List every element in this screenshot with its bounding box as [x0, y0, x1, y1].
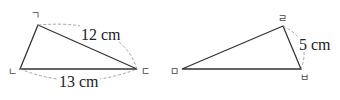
triangle-right: 5 cm ㄹ ㅁ ㅂ — [170, 13, 334, 83]
measure-5cm: 5 cm — [299, 36, 331, 53]
vertex-label-bieup: ㅂ — [300, 72, 309, 83]
vertex-label-giyeok: ㄱ — [31, 10, 40, 21]
measure-12cm: 12 cm — [81, 26, 121, 43]
measure-13cm: 13 cm — [59, 73, 99, 90]
triangle-right-shape — [182, 26, 301, 69]
diagram-canvas: 12 cm 13 cm ㄱ ㄴ ㄷ 5 cm ㄹ ㅁ ㅂ — [0, 0, 340, 100]
vertex-label-rieul: ㄹ — [278, 13, 287, 24]
triangle-left: 12 cm 13 cm ㄱ ㄴ ㄷ — [8, 10, 150, 90]
vertex-label-digeut: ㄷ — [141, 66, 150, 77]
vertex-label-nieun: ㄴ — [8, 66, 17, 77]
vertex-label-mieum: ㅁ — [170, 66, 179, 77]
